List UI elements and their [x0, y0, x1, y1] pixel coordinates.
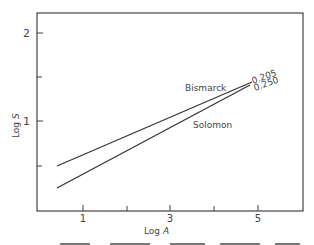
x-tick-label-3: 3 [167, 213, 173, 224]
y-axis-title: Log S [11, 113, 21, 138]
series-label-solomon: Solomon [193, 120, 232, 130]
plot-frame [37, 13, 303, 211]
y-axis-title-log: Log [11, 122, 21, 138]
y-axis-title-var: S [11, 113, 21, 119]
x-tick-label-1: 1 [80, 213, 86, 224]
x-axis-title: Log [144, 226, 160, 236]
chart: 2 1 1 3 5 Log A Log S Bismarck Solomon 0… [0, 0, 314, 245]
x-tick-label-5: 5 [255, 213, 261, 224]
series-label-bismarck: Bismarck [185, 83, 227, 93]
series-line-solomon [57, 85, 250, 188]
x-axis-title-var: A [162, 226, 169, 236]
y-tick-label-1: 1 [23, 115, 30, 128]
y-axis-ticks [37, 33, 43, 166]
y-tick-label-2: 2 [23, 27, 30, 40]
x-axis-ticks [83, 205, 258, 211]
